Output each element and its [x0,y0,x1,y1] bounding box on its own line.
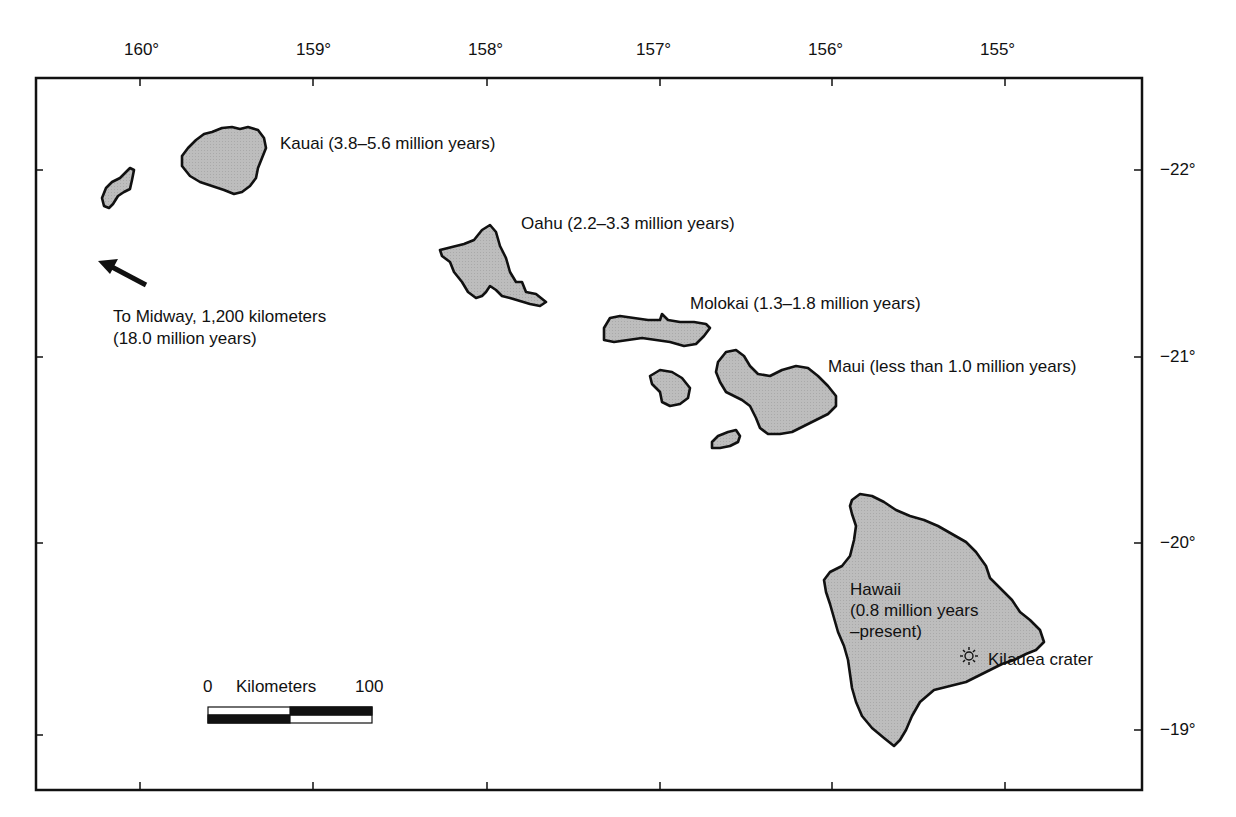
oahu-label: Oahu (2.2–3.3 million years) [521,214,735,234]
molokai-label: Molokai (1.3–1.8 million years) [690,294,921,314]
latitude-label-22: −22° [1160,160,1196,180]
island-maui [716,350,836,434]
midway-label-line2: (18.0 million years) [113,329,257,349]
kauai-label: Kauai (3.8–5.6 million years) [280,134,495,154]
island-lanai [650,370,690,406]
latitude-label-21: −21° [1160,347,1196,367]
longitude-label-155: 155° [980,40,1015,60]
latitude-label-19: −19° [1160,720,1196,740]
latitude-label-20: −20° [1160,533,1196,553]
island-oahu [440,225,546,306]
island-kahoolawe [712,430,740,448]
map-frame [36,78,1142,790]
maui-label: Maui (less than 1.0 million years) [828,357,1076,377]
hawaii-label-line1: Hawaii [850,580,901,600]
island-kauai [182,127,266,194]
island-molokai [604,314,710,346]
longitude-label-159: 159° [296,40,331,60]
kilauea-label: Kilauea crater [988,650,1093,670]
scale-bar [208,707,372,723]
midway-arrow-icon [98,259,146,285]
scale-unit-label: Kilometers [236,677,316,697]
longitude-label-157: 157° [636,40,671,60]
hawaii-map [0,0,1236,817]
longitude-label-158: 158° [468,40,503,60]
scale-end-label: 100 [355,677,383,697]
scale-start-label: 0 [203,677,212,697]
longitude-label-156: 156° [808,40,843,60]
midway-label-line1: To Midway, 1,200 kilometers [113,307,326,327]
island-niihau [102,168,134,208]
longitude-label-160: 160° [124,40,159,60]
hawaii-label-line2: (0.8 million years [850,601,979,621]
hawaii-label-line3: –present) [850,622,922,642]
